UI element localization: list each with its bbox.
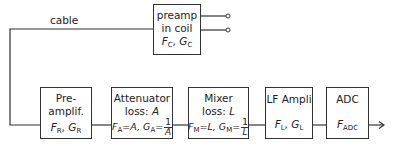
block-title-line-1: Pre-	[56, 92, 76, 105]
block-title-line-1: ADC	[336, 93, 359, 106]
fraction: 1A	[164, 118, 172, 137]
coil-terminal-2	[226, 28, 230, 32]
block-params: FR, GR	[51, 121, 82, 138]
block-title-line-2: in coil	[162, 22, 193, 35]
block-title-line-2: loss: A	[125, 105, 159, 118]
coil-terminal-1	[226, 14, 230, 18]
block-params: FL, GL	[275, 118, 304, 135]
block-title-line-1: Attenuator	[114, 92, 170, 105]
block-title-line-1: LF Ampli	[266, 93, 311, 106]
block-title-line-1: Mixer	[204, 92, 233, 105]
cable-label: cable	[50, 14, 78, 26]
block-attenuator: Attenuator loss: A FA=A, GA=1A	[111, 87, 173, 139]
fraction: 1L	[241, 118, 249, 137]
block-title-line-2: amplif.	[48, 105, 83, 118]
block-adc: ADC FADC	[326, 87, 369, 139]
block-params: FADC	[337, 118, 358, 135]
block-pre-amplifier: Pre- amplif. FR, GR	[40, 87, 92, 139]
block-lf-amplifier: LF Ampli FL, GL	[265, 87, 313, 139]
block-params: FA=A, GA=1A	[112, 118, 172, 137]
block-params: FM=L, GM=1L	[188, 118, 249, 137]
block-title-line-1: preamp	[157, 9, 198, 22]
block-mixer: Mixer loss: L FM=L, GM=1L	[188, 87, 249, 139]
block-preamp-in-coil: preamp in coil FC, GC	[153, 4, 201, 55]
block-title-line-2: loss: L	[202, 105, 235, 118]
block-params: FC, GC	[162, 35, 193, 52]
